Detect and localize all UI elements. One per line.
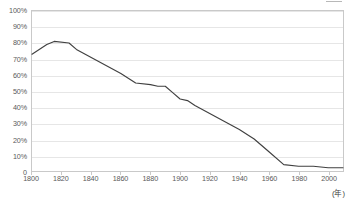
x-tick-label: 1840 xyxy=(83,174,99,183)
x-axis-unit-label: (年) xyxy=(332,187,345,198)
y-tick-label: 90% xyxy=(13,22,27,31)
x-tick-label: 2000 xyxy=(321,174,337,183)
x-tick-label: 1860 xyxy=(113,174,129,183)
x-tick-mark xyxy=(180,172,181,175)
x-tick-mark xyxy=(150,172,151,175)
data-line-series-1 xyxy=(32,41,343,167)
series-layer xyxy=(32,11,343,171)
x-axis: 1800182018401860188019001920194019601980… xyxy=(31,174,344,188)
plot-area xyxy=(31,10,344,172)
x-tick-label: 1800 xyxy=(23,174,39,183)
y-tick-label: 100% xyxy=(9,6,27,15)
legend-line-swatch xyxy=(326,1,342,2)
y-tick-label: 30% xyxy=(13,119,27,128)
y-tick-label: 40% xyxy=(13,103,27,112)
x-tick-mark xyxy=(299,172,300,175)
x-tick-mark xyxy=(31,172,32,175)
y-tick-label: 70% xyxy=(13,54,27,63)
x-tick-mark xyxy=(210,172,211,175)
y-tick-label: 50% xyxy=(13,87,27,96)
x-tick-mark xyxy=(61,172,62,175)
y-tick-label: 80% xyxy=(13,38,27,47)
x-tick-label: 1900 xyxy=(172,174,188,183)
x-tick-label: 1980 xyxy=(291,174,307,183)
x-tick-label: 1940 xyxy=(232,174,248,183)
x-tick-mark xyxy=(120,172,121,175)
x-tick-label: 1820 xyxy=(53,174,69,183)
x-tick-mark xyxy=(91,172,92,175)
x-tick-mark xyxy=(240,172,241,175)
x-tick-mark xyxy=(329,172,330,175)
x-tick-mark xyxy=(269,172,270,175)
x-tick-label: 1960 xyxy=(262,174,278,183)
x-tick-label: 1880 xyxy=(142,174,158,183)
y-tick-label: 20% xyxy=(13,135,27,144)
y-tick-label: 10% xyxy=(13,151,27,160)
line-chart: 100%90%80%70%60%50%40%30%20%10%0 1800182… xyxy=(0,0,349,204)
x-tick-label: 1920 xyxy=(202,174,218,183)
chart-legend xyxy=(326,1,345,2)
y-tick-label: 60% xyxy=(13,70,27,79)
